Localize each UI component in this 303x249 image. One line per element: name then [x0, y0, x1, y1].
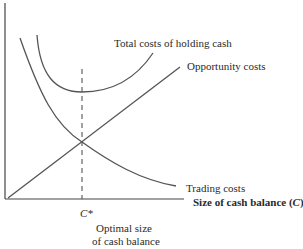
x-axis-label-text: Size of cash balance (: [193, 196, 293, 208]
x-axis-label-close: ): [300, 196, 303, 208]
trading-costs-curve: [20, 38, 176, 186]
opportunity-costs-label: Opportunity costs: [187, 60, 266, 72]
trading-costs-label: Trading costs: [186, 182, 245, 194]
x-axis-variable: C: [293, 196, 300, 208]
total-costs-label: Total costs of holding cash: [114, 37, 232, 49]
x-axis-label: Size of cash balance (C): [193, 196, 303, 208]
opportunity-costs-line: [8, 67, 180, 198]
optimal-label-line1: Optimal size: [96, 222, 152, 234]
c-star-label: C*: [80, 207, 93, 219]
optimal-label-line2: of cash balance: [92, 235, 160, 247]
